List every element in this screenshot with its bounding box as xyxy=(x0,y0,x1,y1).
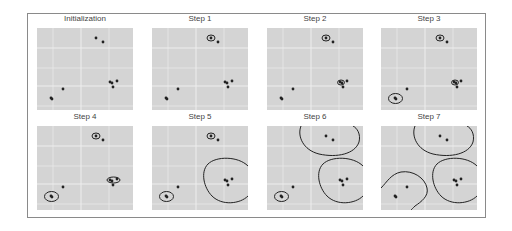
scatter-plot xyxy=(152,126,248,210)
data-point xyxy=(102,41,105,44)
data-point xyxy=(227,86,230,89)
data-point xyxy=(226,180,229,183)
panel-step-7: Step 7 xyxy=(381,126,477,210)
data-point xyxy=(325,37,328,40)
data-point xyxy=(325,135,328,138)
data-point xyxy=(456,86,459,89)
data-point xyxy=(406,88,409,91)
data-point xyxy=(111,180,114,183)
data-point xyxy=(231,178,234,181)
data-point xyxy=(210,135,213,138)
data-point xyxy=(439,135,442,138)
data-point xyxy=(446,139,449,142)
data-point xyxy=(406,186,409,189)
data-point xyxy=(292,186,295,189)
panel-title: Initialization xyxy=(37,14,133,23)
data-point xyxy=(332,41,335,44)
panel-step-4: Step 4 xyxy=(37,126,133,210)
panel-initialization: Initialization xyxy=(37,28,133,110)
panel-step-5: Step 5 xyxy=(152,126,248,210)
data-point xyxy=(281,98,284,101)
data-point xyxy=(112,86,115,89)
data-point xyxy=(226,82,229,85)
data-point xyxy=(341,82,344,85)
data-point xyxy=(231,80,234,83)
data-point xyxy=(460,80,463,83)
scatter-plot xyxy=(381,28,477,110)
data-point xyxy=(342,86,345,89)
panel-step-1: Step 1 xyxy=(152,28,248,110)
data-point xyxy=(51,98,54,101)
panel-title: Step 1 xyxy=(152,14,248,23)
data-point xyxy=(395,196,398,199)
scatter-plot xyxy=(267,126,363,210)
data-point xyxy=(446,41,449,44)
panel-step-2: Step 2 xyxy=(267,28,363,110)
data-point xyxy=(332,139,335,142)
data-point xyxy=(62,88,65,91)
data-point xyxy=(460,178,463,181)
data-point xyxy=(455,82,458,85)
data-point xyxy=(51,196,54,199)
data-point xyxy=(455,180,458,183)
data-point xyxy=(292,88,295,91)
data-point xyxy=(217,139,220,142)
data-point xyxy=(95,37,98,40)
data-point xyxy=(112,184,115,187)
data-point xyxy=(166,196,169,199)
data-point xyxy=(456,184,459,187)
scatter-plot xyxy=(37,28,133,110)
data-point xyxy=(177,186,180,189)
data-point xyxy=(116,80,119,83)
scatter-plot xyxy=(152,28,248,110)
data-point xyxy=(177,88,180,91)
data-point xyxy=(217,41,220,44)
panel-title: Step 5 xyxy=(152,112,248,121)
data-point xyxy=(341,180,344,183)
panel-title: Step 2 xyxy=(267,14,363,23)
data-point xyxy=(439,37,442,40)
data-point xyxy=(281,196,284,199)
data-point xyxy=(111,82,114,85)
scatter-plot xyxy=(267,28,363,110)
data-point xyxy=(227,184,230,187)
panel-title: Step 3 xyxy=(381,14,477,23)
data-point xyxy=(342,184,345,187)
data-point xyxy=(102,139,105,142)
data-point xyxy=(346,80,349,83)
scatter-plot xyxy=(381,126,477,210)
panel-step-3: Step 3 xyxy=(381,28,477,110)
data-point xyxy=(166,98,169,101)
panel-step-6: Step 6 xyxy=(267,126,363,210)
data-point xyxy=(395,98,398,101)
scatter-plot xyxy=(37,126,133,210)
data-point xyxy=(62,186,65,189)
data-point xyxy=(95,135,98,138)
panel-title: Step 6 xyxy=(267,112,363,121)
data-point xyxy=(346,178,349,181)
data-point xyxy=(210,37,213,40)
panel-title: Step 7 xyxy=(381,112,477,121)
panel-title: Step 4 xyxy=(37,112,133,121)
